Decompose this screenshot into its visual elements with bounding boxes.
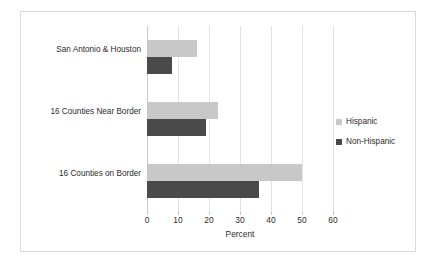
- x-tick-label: 0: [145, 215, 150, 225]
- legend-label: Hispanic: [346, 117, 377, 126]
- gridline: [333, 26, 334, 212]
- x-tick-label: 10: [173, 215, 182, 225]
- x-tick-label: 50: [297, 215, 306, 225]
- category-group: 16 Counties on Border: [147, 150, 333, 212]
- x-tick-label: 40: [266, 215, 275, 225]
- legend-swatch-icon: [336, 119, 342, 125]
- category-label: 16 Counties on Border: [59, 169, 141, 178]
- chart-frame: San Antonio & Houston 16 Counties Near B…: [20, 11, 416, 252]
- bar-non-hispanic: [147, 57, 172, 74]
- category-label: San Antonio & Houston: [56, 45, 141, 54]
- plot-area: San Antonio & Houston 16 Counties Near B…: [147, 26, 333, 212]
- chart-legend: Hispanic Non-Hispanic: [336, 117, 431, 157]
- x-tick-label: 20: [204, 215, 213, 225]
- x-axis-title: Percent: [147, 229, 333, 239]
- bar-non-hispanic: [147, 119, 206, 136]
- bar-non-hispanic: [147, 181, 259, 198]
- legend-swatch-icon: [336, 139, 342, 145]
- category-group: San Antonio & Houston: [147, 26, 333, 88]
- bar-hispanic: [147, 40, 197, 57]
- x-tick-label: 30: [235, 215, 244, 225]
- bar-hispanic: [147, 164, 302, 181]
- legend-item-non-hispanic: Non-Hispanic: [336, 137, 431, 146]
- bar-hispanic: [147, 102, 218, 119]
- x-axis-ticks: 0102030405060: [147, 212, 333, 226]
- legend-item-hispanic: Hispanic: [336, 117, 431, 126]
- legend-label: Non-Hispanic: [346, 137, 395, 146]
- category-group: 16 Counties Near Border: [147, 88, 333, 150]
- category-label: 16 Counties Near Border: [50, 107, 141, 116]
- x-tick-label: 60: [328, 215, 337, 225]
